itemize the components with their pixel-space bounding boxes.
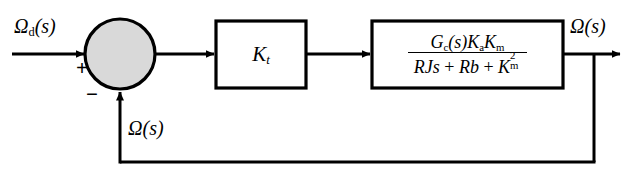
summing-junction-circle: [85, 19, 155, 89]
num-s-arg: (s): [448, 32, 467, 52]
transfer-function-numerator: Gc(s)KaKm: [424, 33, 510, 52]
feedback-omega: Ω: [128, 117, 142, 139]
den-Rb: Rb: [459, 57, 479, 77]
gain-block-k: K: [252, 42, 266, 66]
output-signal-label: Ω(s): [570, 16, 606, 36]
transfer-function-label: Gc(s)KaKm RJs + Rb + K2m: [372, 21, 563, 88]
den-plus-2: +: [483, 57, 493, 77]
feedback-arg: (s): [142, 117, 163, 139]
transfer-function-denominator: RJs + Rb + K2m: [408, 53, 527, 76]
feedback-signal-label: Ω(s): [128, 118, 164, 138]
output-omega: Ω: [570, 15, 584, 37]
den-Km: K: [498, 57, 510, 77]
gain-block-subscript: t: [266, 52, 270, 67]
input-omega: Ω: [14, 15, 28, 37]
den-RJs: RJs: [414, 57, 440, 77]
gain-block-label: Kt: [216, 21, 306, 88]
den-Km-subscript: m: [510, 60, 518, 71]
input-arg: (s): [35, 15, 56, 37]
num-G: G: [430, 32, 443, 52]
den-plus-1: +: [444, 57, 454, 77]
transfer-function-fraction: Gc(s)KaKm RJs + Rb + K2m: [408, 33, 527, 77]
input-signal-label: Ωd(s): [14, 16, 56, 36]
summing-junction-plus-sign: +: [76, 58, 88, 79]
output-arg: (s): [584, 15, 605, 37]
summing-junction-minus-sign: −: [86, 84, 98, 105]
block-diagram: Ωd(s) Ω(s) Ω(s) + − Kt Gc(s)KaKm RJs + R…: [0, 0, 629, 177]
num-Km: K: [484, 32, 496, 52]
den-Km-supsub: 2m: [510, 55, 521, 73]
num-Km-subscript: m: [496, 40, 504, 52]
num-Ka: K: [467, 32, 479, 52]
